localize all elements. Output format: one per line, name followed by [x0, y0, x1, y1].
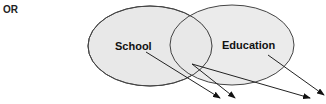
school-label: School [115, 40, 152, 52]
arrow-education [268, 55, 324, 95]
venn-diagram: School Education [0, 0, 326, 104]
education-label: Education [222, 39, 275, 51]
